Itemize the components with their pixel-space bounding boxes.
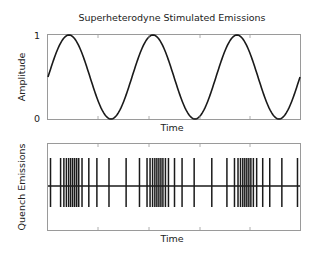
quench-pulses [51, 158, 298, 207]
chart-title: Superheterodyne Stimulated Emissions [78, 12, 265, 23]
bottom-xlabel: Time [159, 233, 183, 244]
stimulus-line [48, 35, 300, 119]
top-ylabel: Amplitude [16, 53, 27, 102]
bottom-ylabel: Quench Emissions [16, 144, 27, 231]
ytick-1: 1 [34, 30, 40, 41]
top-xlabel: Time [159, 122, 183, 133]
ytick-0: 0 [34, 113, 40, 124]
chart-canvas: Superheterodyne Stimulated Emissions 1 0… [0, 0, 318, 253]
figure: Superheterodyne Stimulated Emissions 1 0… [0, 0, 318, 253]
